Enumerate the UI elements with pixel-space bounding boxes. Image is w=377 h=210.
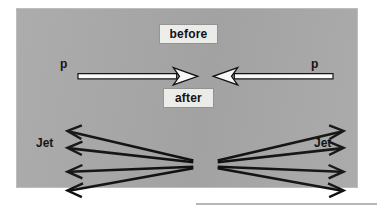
figure-canvas: before after p p Jet Jet [0,0,377,210]
before-arrow-right [213,68,333,85]
before-arrow-left-shaft [78,74,177,79]
before-arrow-right-shaft [234,74,333,79]
arrow-artwork [17,9,377,210]
before-arrow-left [78,68,198,85]
jet-fan-right [218,125,344,197]
jet-fan-left [67,125,193,197]
bottom-rule [196,203,377,205]
diagram-panel: before after p p Jet Jet [17,9,357,187]
jet-arrow-left-4 [67,168,193,197]
jet-arrow-right-4 [218,168,344,197]
